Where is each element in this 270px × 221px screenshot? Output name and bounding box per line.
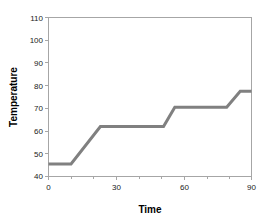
y-tick-label-40: 40 (34, 172, 43, 181)
x-tick-label-0: 0 (46, 183, 51, 192)
y-tick-label-50: 50 (34, 150, 43, 159)
y-tick-label-90: 90 (34, 59, 43, 68)
y-tick-label-80: 80 (34, 82, 43, 91)
y-tick-label-110: 110 (30, 14, 43, 23)
y-axis-title: Temperature (8, 67, 19, 127)
y-tick-label-100: 100 (30, 36, 44, 45)
x-tick-label-90: 90 (247, 183, 256, 192)
temperature-vs-time-line-chart: 110 100 90 80 70 60 50 40 0 30 60 90 (0, 0, 270, 221)
x-tick-label-30: 30 (112, 183, 121, 192)
chart-figure: 110 100 90 80 70 60 50 40 0 30 60 90 (0, 0, 270, 221)
x-axis-tick-labels: 0 30 60 90 (46, 183, 256, 192)
temperature-series-line (49, 91, 252, 164)
x-axis-title: Time (138, 204, 162, 215)
y-tick-label-70: 70 (34, 104, 43, 113)
y-axis-tick-labels: 110 100 90 80 70 60 50 40 (30, 14, 44, 182)
y-tick-label-60: 60 (34, 127, 43, 136)
x-tick-label-60: 60 (180, 183, 189, 192)
y-axis-ticks (45, 18, 48, 177)
